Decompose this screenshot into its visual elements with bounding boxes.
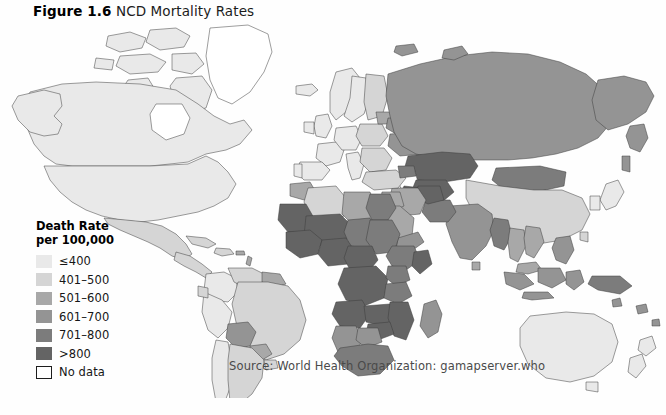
legend-item-label: ≤400 — [59, 254, 91, 268]
legend-title-line2: per 100,000 — [36, 233, 114, 247]
map-legend: Death Rate per 100,000 ≤400401–500501–60… — [36, 220, 162, 382]
region-ecuador — [198, 286, 208, 298]
legend-item-label: 701–800 — [59, 328, 109, 342]
legend-swatch — [36, 347, 52, 360]
legend-item-label: 601–700 — [59, 310, 109, 324]
region-hispaniola — [214, 248, 234, 256]
region-thailand — [508, 228, 526, 262]
region-tasmania — [586, 382, 598, 392]
legend-swatch — [36, 292, 52, 305]
region-madagascar — [420, 300, 442, 338]
legend-title-line1: Death Rate — [36, 219, 109, 233]
region-canada-arctic-4 — [172, 53, 204, 74]
region-canada-arctic-3 — [116, 54, 166, 74]
region-alaska — [12, 90, 62, 136]
region-pacific-islands-3 — [652, 319, 660, 326]
region-sri-lanka — [472, 262, 480, 270]
region-puerto-rico — [236, 251, 245, 255]
region-pacific-islands-2 — [612, 298, 622, 307]
source-note: Source: World Health Organization: gamap… — [229, 359, 545, 373]
legend-swatch — [36, 273, 52, 286]
region-canada-arctic-5 — [94, 58, 114, 70]
region-indonesia-java — [522, 292, 554, 300]
region-korea — [590, 196, 600, 210]
region-vietnam — [524, 226, 544, 258]
legend-swatch — [36, 255, 52, 268]
region-indonesia-sulawesi — [566, 270, 584, 290]
legend-title: Death Rate per 100,000 — [36, 220, 162, 247]
region-svalbard — [394, 44, 418, 56]
region-taiwan — [580, 232, 588, 242]
region-canada-arctic-2 — [146, 28, 190, 50]
region-new-zealand-south — [628, 354, 646, 378]
region-balkans — [360, 148, 392, 172]
region-lesser-antilles — [246, 256, 252, 266]
region-pacific-islands-1 — [636, 304, 648, 314]
legend-swatch — [36, 329, 52, 342]
legend-item-label: 501–600 — [59, 291, 109, 305]
figure-container: Figure 1.6 NCD Mortality Rates — [0, 0, 666, 415]
region-iceland — [296, 84, 318, 96]
region-canada-arctic-1 — [106, 32, 146, 52]
region-kamchatka — [626, 124, 648, 152]
legend-swatch — [36, 366, 52, 379]
region-portugal — [294, 164, 302, 178]
region-cuba — [186, 236, 216, 248]
region-united-kingdom — [314, 114, 332, 138]
region-greenland — [206, 25, 272, 104]
region-philippines — [552, 236, 574, 264]
region-russia-east — [592, 76, 654, 130]
page-title: Figure 1.6 NCD Mortality Rates — [33, 3, 254, 20]
region-japan — [600, 180, 624, 210]
legend-item: >800 — [36, 345, 162, 364]
region-united-states — [44, 156, 236, 222]
region-indonesia-sumatra — [504, 272, 534, 290]
figure-label: Figure 1.6 — [33, 3, 112, 19]
region-ireland — [304, 122, 314, 134]
region-papua-new-guinea — [588, 276, 632, 294]
legend-item-label: 401–500 — [59, 273, 109, 287]
legend-item-label: No data — [59, 365, 105, 379]
legend-item: No data — [36, 363, 162, 382]
region-caucasus — [398, 166, 416, 178]
region-new-zealand-north — [638, 336, 656, 356]
region-russia — [386, 52, 612, 160]
figure-name: NCD Mortality Rates — [116, 3, 254, 19]
legend-swatch — [36, 310, 52, 323]
region-drc — [338, 266, 388, 306]
region-poland — [356, 124, 388, 146]
legend-rows: ≤400401–500501–600601–700701–800>800No d… — [36, 252, 162, 382]
region-somalia — [412, 250, 432, 274]
region-angola — [332, 300, 370, 328]
legend-item-label: >800 — [59, 347, 91, 361]
legend-item: 701–800 — [36, 326, 162, 345]
region-sakhalin — [622, 156, 630, 172]
region-indonesia-borneo — [538, 268, 566, 288]
legend-item: ≤400 — [36, 252, 162, 271]
legend-item: 601–700 — [36, 308, 162, 327]
legend-item: 501–600 — [36, 289, 162, 308]
region-tanzania — [384, 282, 412, 304]
legend-item: 401–500 — [36, 271, 162, 290]
